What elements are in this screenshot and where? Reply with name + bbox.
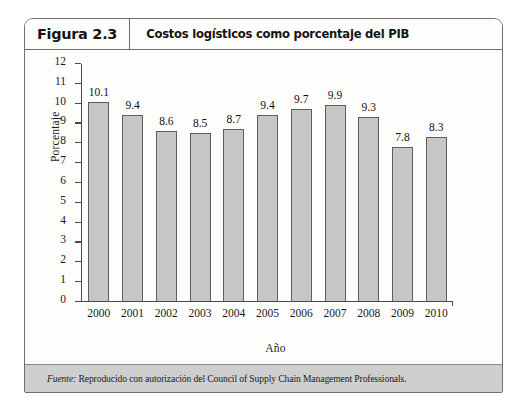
- y-axis-tick: 9: [75, 122, 81, 123]
- y-axis-tick-label: 8: [60, 134, 66, 146]
- figure-source: Fuente: Reproducido con autorización del…: [25, 373, 407, 384]
- figure-title: Costos logísticos como porcentaje del PI…: [130, 27, 409, 41]
- y-axis-tick: 8: [75, 142, 81, 143]
- y-axis-tick-label: 9: [60, 114, 66, 126]
- bar-value-label: 8.6: [159, 115, 173, 127]
- x-axis-tick-label: 2000: [87, 307, 110, 319]
- x-axis-tick-label: 2002: [155, 307, 178, 319]
- bar-value-label: 9.3: [362, 101, 376, 113]
- figure-page: Figura 2.3 Costos logísticos como porcen…: [0, 0, 527, 412]
- y-axis-tick: 7: [75, 162, 81, 163]
- bar-slot: 9.72006: [284, 64, 318, 301]
- bar-slot: 9.32008: [352, 64, 386, 301]
- y-axis-tick: 1: [75, 281, 81, 282]
- figure-number: Figura 2.3: [25, 26, 129, 42]
- bar-value-label: 9.9: [328, 89, 342, 101]
- x-axis-tick-label: 2010: [425, 307, 448, 319]
- bar-slot: 9.42005: [251, 64, 285, 301]
- bar-slot: 8.52003: [183, 64, 217, 301]
- bar-slot: 9.92007: [318, 64, 352, 301]
- bar-slot: 8.32010: [419, 64, 453, 301]
- x-axis-tick-label: 2004: [222, 307, 245, 319]
- bar-slot: 7.82009: [386, 64, 420, 301]
- y-axis-tick-label: 6: [60, 174, 66, 186]
- bar-value-label: 8.5: [193, 117, 207, 129]
- bar-slot: 8.62002: [149, 64, 183, 301]
- bar[interactable]: 8.7: [223, 129, 244, 301]
- y-axis-tick-label: 2: [60, 253, 66, 265]
- bar[interactable]: 9.7: [291, 109, 312, 301]
- y-axis-tick-label: 10: [55, 95, 67, 107]
- bar-slot: 9.42001: [116, 64, 150, 301]
- figure-footer: Fuente: Reproducido con autorización del…: [25, 364, 502, 392]
- y-axis-tick: 12: [75, 63, 81, 64]
- bar[interactable]: 8.3: [426, 137, 447, 301]
- x-axis-tick-label: 2005: [256, 307, 279, 319]
- y-axis-tick: 5: [75, 202, 81, 203]
- bar[interactable]: 9.4: [257, 115, 278, 301]
- y-axis-tick-label: 7: [60, 154, 66, 166]
- y-axis-tick-label: 3: [60, 233, 66, 245]
- y-axis-tick: 0: [75, 301, 81, 302]
- y-axis-tick-label: 12: [55, 55, 67, 67]
- x-axis-end-tick: [452, 302, 453, 306]
- y-axis-tick: 2: [75, 261, 81, 262]
- bar-value-label: 10.1: [89, 86, 109, 98]
- source-label: Fuente:: [47, 373, 76, 384]
- x-axis-title: Año: [25, 342, 502, 354]
- bar-slot: 10.12000: [82, 64, 116, 301]
- figure-card: Figura 2.3 Costos logísticos como porcen…: [24, 18, 503, 393]
- y-axis-tick-label: 5: [60, 194, 66, 206]
- x-axis-tick-label: 2003: [189, 307, 212, 319]
- figure-header: Figura 2.3 Costos logísticos como porcen…: [25, 19, 502, 50]
- bar-value-label: 8.3: [429, 121, 443, 133]
- bar-value-label: 9.4: [260, 99, 274, 111]
- chart-area: Porcentaje Año 0123456789101112 10.12000…: [25, 50, 502, 356]
- x-axis-tick-label: 2006: [290, 307, 313, 319]
- y-axis-tick: 3: [75, 241, 81, 242]
- x-axis-tick-label: 2009: [391, 307, 414, 319]
- bar[interactable]: 8.5: [190, 133, 211, 301]
- x-axis-tick-label: 2007: [324, 307, 347, 319]
- bar[interactable]: 9.3: [358, 117, 379, 301]
- source-text: Reproducido con autorización del Council…: [76, 373, 406, 384]
- y-axis-tick-label: 4: [60, 214, 66, 226]
- y-axis-tick-label: 1: [60, 273, 66, 285]
- bar-value-label: 7.8: [395, 131, 409, 143]
- bar[interactable]: 9.4: [122, 115, 143, 301]
- bar-series: 10.120009.420018.620028.520038.720049.42…: [82, 64, 453, 301]
- plot-box: 0123456789101112 10.120009.420018.620028…: [81, 64, 453, 302]
- y-axis-tick: 6: [75, 182, 81, 183]
- bar[interactable]: 7.8: [392, 147, 413, 301]
- y-axis-title: Porcentaje: [49, 111, 61, 162]
- y-axis-tick: 4: [75, 222, 81, 223]
- bar[interactable]: 10.1: [88, 102, 109, 301]
- bar[interactable]: 9.9: [325, 105, 346, 301]
- x-axis-tick-label: 2001: [121, 307, 144, 319]
- bar[interactable]: 8.6: [156, 131, 177, 301]
- bar-value-label: 8.7: [227, 113, 241, 125]
- y-axis-tick: 10: [75, 103, 81, 104]
- x-axis-tick-label: 2008: [357, 307, 380, 319]
- y-axis-tick-label: 0: [60, 293, 66, 305]
- x-axis-line: [81, 301, 453, 302]
- bar-value-label: 9.4: [125, 99, 139, 111]
- bar-slot: 8.72004: [217, 64, 251, 301]
- y-axis-tick-label: 11: [55, 75, 66, 87]
- bar-value-label: 9.7: [294, 93, 308, 105]
- y-axis-tick: 11: [75, 83, 81, 84]
